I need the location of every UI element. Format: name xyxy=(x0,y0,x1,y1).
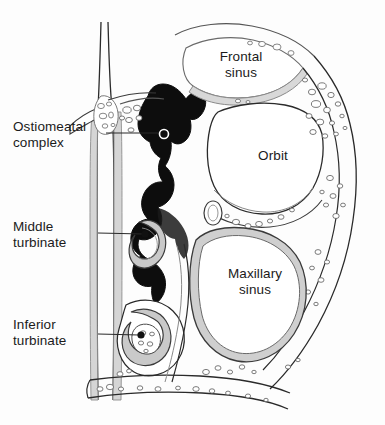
cancellous-bone-cells-mid xyxy=(320,175,346,218)
septum-mucosa-left xyxy=(90,112,98,400)
label-frontal-sinus: Frontal sinus xyxy=(199,49,283,80)
inferior-turbinate-group xyxy=(117,300,184,376)
septum-right-wall xyxy=(108,22,114,400)
cancellous-bone-cells-lower xyxy=(305,250,329,306)
infraorbital-ethmoid-cell-inner xyxy=(208,205,218,221)
hard-palate-marrow-cells xyxy=(97,384,268,401)
leader-marker-middle-turbinate xyxy=(141,230,148,237)
anatomy-illustration xyxy=(0,0,385,425)
label-middle-turbinate: Middle turbinate xyxy=(13,219,66,250)
label-inferior-turbinate: Inferior turbinate xyxy=(13,317,66,348)
hard-palate-lower xyxy=(88,392,288,409)
palate-left-edge xyxy=(87,380,90,398)
leader-marker-inferior-turbinate xyxy=(137,331,144,338)
nasal-septum-group xyxy=(70,22,122,400)
label-ostiomeatal-complex: Ostiomeatal complex xyxy=(13,119,86,150)
septum-marrow-pocket xyxy=(94,96,118,135)
label-orbit: Orbit xyxy=(239,148,307,164)
sinus-anatomy-figure: Ostiomeatal complex Middle turbinate Inf… xyxy=(0,0,385,425)
label-maxillary-sinus: Maxillary sinus xyxy=(209,266,301,297)
